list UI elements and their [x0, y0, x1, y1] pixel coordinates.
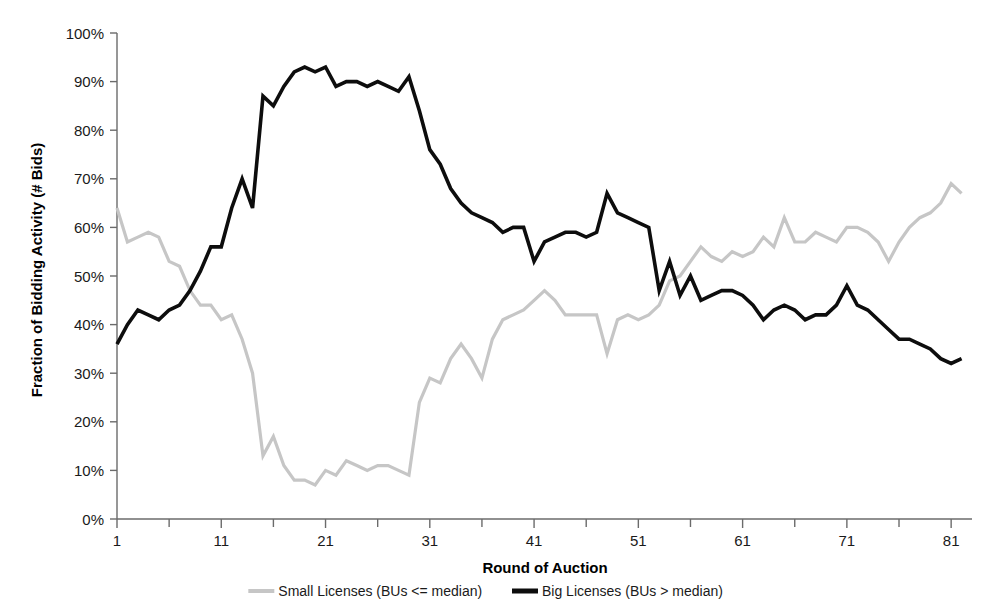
legend-item: Big Licenses (BUs > median) — [512, 583, 723, 599]
y-tick-label: 60% — [74, 219, 104, 236]
legend-label: Big Licenses (BUs > median) — [542, 583, 723, 599]
chart-legend: Small Licenses (BUs <= median)Big Licens… — [248, 583, 723, 599]
y-tick-label: 10% — [74, 462, 104, 479]
y-tick-label: 30% — [74, 365, 104, 382]
x-tick-label: 31 — [421, 532, 438, 549]
axes — [117, 33, 972, 519]
series-line-big-licenses — [117, 67, 962, 363]
x-axis-title: Round of Auction — [482, 559, 607, 576]
bidding-activity-chart: Fraction of Bidding Activity (# Bids) Ro… — [0, 0, 988, 612]
y-tick-label: 70% — [74, 170, 104, 187]
y-axis-ticks: 0%10%20%30%40%50%60%70%80%90%100% — [66, 25, 117, 528]
x-tick-label: 21 — [317, 532, 334, 549]
y-tick-label: 0% — [82, 511, 104, 528]
x-tick-label: 41 — [526, 532, 543, 549]
y-tick-label: 20% — [74, 413, 104, 430]
series-line-small-licenses — [117, 184, 962, 485]
data-series-group — [117, 67, 962, 485]
chart-canvas: Fraction of Bidding Activity (# Bids) Ro… — [0, 0, 988, 612]
x-tick-label: 61 — [734, 532, 751, 549]
y-tick-label: 100% — [66, 25, 104, 42]
x-tick-label: 51 — [630, 532, 647, 549]
x-tick-label: 1 — [113, 532, 121, 549]
y-tick-label: 90% — [74, 73, 104, 90]
x-tick-label: 81 — [943, 532, 960, 549]
legend-label: Small Licenses (BUs <= median) — [278, 583, 482, 599]
y-axis-title: Fraction of Bidding Activity (# Bids) — [28, 143, 45, 397]
x-tick-label: 71 — [839, 532, 856, 549]
legend-item: Small Licenses (BUs <= median) — [248, 583, 482, 599]
x-tick-label: 11 — [213, 532, 229, 549]
x-axis-ticks: 11121314151617181 — [113, 519, 960, 549]
y-tick-label: 50% — [74, 268, 104, 285]
y-tick-label: 80% — [74, 122, 104, 139]
y-tick-label: 40% — [74, 316, 104, 333]
